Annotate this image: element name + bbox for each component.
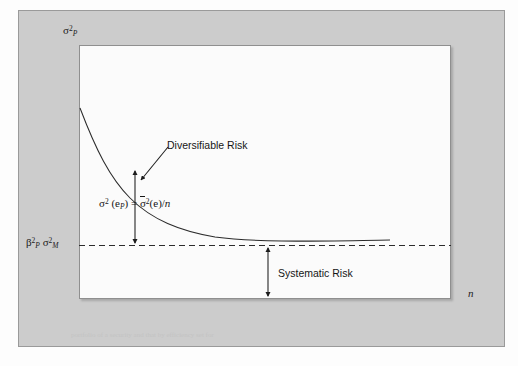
formula-rhs-n: n <box>165 197 171 209</box>
diversifiable-risk-formula: σ2 (eP) = σ2(e)/n <box>99 197 170 211</box>
y-axis-label: σ2P <box>63 24 77 38</box>
figure-root: Some notice the behavior of a line if a … <box>0 0 518 366</box>
diversifiable-risk-label: Diversifiable Risk <box>167 139 248 151</box>
formula-rhs-sigma-bar: σ <box>140 197 146 209</box>
formula-rhs-arg: (e)/ <box>150 197 165 209</box>
threshold-beta-subscript: P <box>35 241 40 250</box>
systematic-risk-label: Systematic Risk <box>278 267 353 279</box>
threshold-sigma-subscript: M <box>52 241 58 250</box>
formula-lhs-open: (e <box>109 197 120 209</box>
y-axis-subscript: P <box>73 29 78 38</box>
systematic-risk-axis-label: β2P σ2M <box>26 236 59 250</box>
plot-area <box>79 45 451 299</box>
formula-equals: = <box>128 197 140 209</box>
x-axis-label: n <box>468 287 474 299</box>
ghost-text-line: portfolio of a security and that by effi… <box>71 331 214 339</box>
